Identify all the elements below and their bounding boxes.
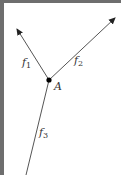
vector-f1: [17, 29, 49, 80]
label-f3: f3: [38, 126, 48, 140]
label-f1: f1: [21, 56, 31, 70]
point-a-dot: [46, 77, 51, 82]
vector-f2: [49, 18, 115, 80]
vector-f3: [26, 80, 49, 175]
label-point-a: A: [53, 80, 62, 93]
label-f2: f2: [73, 54, 83, 68]
force-diagram: f1 f2 A f3: [0, 0, 121, 175]
